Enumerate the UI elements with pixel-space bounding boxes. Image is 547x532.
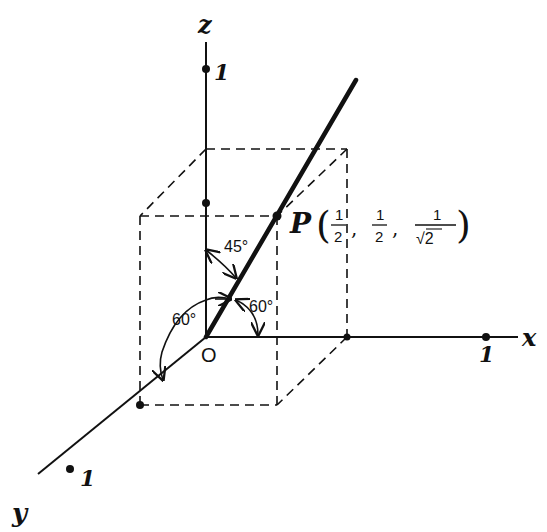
x-axis-label: x xyxy=(521,323,537,352)
svg-text:): ) xyxy=(456,203,471,247)
x-half-dot xyxy=(344,334,351,341)
svg-text:2: 2 xyxy=(334,228,342,245)
points xyxy=(66,65,490,473)
z-unit-dot xyxy=(202,65,210,73)
angle-label-y: 60° xyxy=(172,311,196,328)
z-tick-label: 1 xyxy=(214,59,229,85)
angle-arc-y xyxy=(160,297,226,380)
y-tick-label: 1 xyxy=(80,465,95,491)
x-unit-dot xyxy=(482,333,490,341)
x-tick-label: 1 xyxy=(479,341,494,367)
z-axis-label: z xyxy=(197,10,213,39)
angle-label-x: 60° xyxy=(249,298,273,315)
y-axis-label: y xyxy=(11,498,29,528)
svg-text:2: 2 xyxy=(375,228,383,245)
axes xyxy=(38,42,518,474)
svg-text:,: , xyxy=(392,216,398,240)
y-half-dot xyxy=(136,401,144,409)
direction-angle-diagram: z 1 x 1 y 1 O 45° 60° 60° P ( 1 2 , 1 2 … xyxy=(0,0,547,532)
svg-text:√2: √2 xyxy=(416,230,434,247)
origin-label: O xyxy=(201,344,217,366)
y-axis xyxy=(38,337,206,474)
z-half-dot xyxy=(202,199,210,207)
svg-text:,: , xyxy=(351,216,357,240)
angle-label-z: 45° xyxy=(224,238,248,255)
svg-text:1: 1 xyxy=(433,206,441,223)
point-p-label: P ( 1 2 , 1 2 , 1 √2 ) xyxy=(289,203,471,247)
svg-text:1: 1 xyxy=(335,206,343,223)
svg-text:P: P xyxy=(289,207,312,240)
y-unit-dot xyxy=(66,465,74,473)
svg-text:1: 1 xyxy=(376,206,384,223)
svg-text:(: ( xyxy=(316,203,331,247)
point-p-dot xyxy=(273,212,282,221)
